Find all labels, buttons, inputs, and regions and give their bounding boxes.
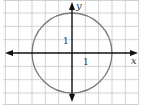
- x-tick-label-one: 1: [83, 57, 89, 67]
- y-axis: [69, 2, 75, 102]
- y-axis-up-arrow-icon: [69, 2, 75, 10]
- x-axis-left-arrow-icon: [5, 50, 13, 56]
- y-axis-label: y: [75, 0, 82, 11]
- y-axis-down-arrow-icon: [69, 94, 75, 102]
- coordinate-plane: y x 1 1: [0, 0, 141, 109]
- x-axis-label: x: [131, 55, 137, 66]
- y-tick-label-one: 1: [63, 36, 69, 46]
